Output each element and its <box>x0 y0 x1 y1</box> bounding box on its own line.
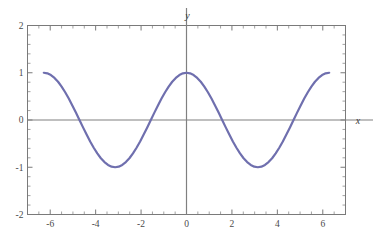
y-tick-label: 1 <box>19 68 24 78</box>
x-tick-label: -2 <box>137 219 145 229</box>
x-tick-label: 6 <box>320 219 325 229</box>
x-tick-label: 4 <box>275 219 280 229</box>
y-tick-label: -2 <box>16 210 24 220</box>
y-tick-label: 0 <box>19 115 24 125</box>
x-tick-label: 0 <box>184 219 189 229</box>
y-tick-label: -1 <box>16 163 24 173</box>
plot-canvas: -6-4-20246-2-1012yx <box>0 0 373 241</box>
x-tick-label: -4 <box>92 219 100 229</box>
x-axis-major-ticks: -6-4-20246 <box>46 26 325 229</box>
y-axis-name-label: y <box>184 10 190 21</box>
plot-figure: -6-4-20246-2-1012yx <box>0 0 373 241</box>
x-axis-name-label: x <box>355 115 361 126</box>
y-tick-label: 2 <box>19 21 24 31</box>
x-tick-label: -6 <box>46 219 54 229</box>
x-tick-label: 2 <box>230 219 235 229</box>
